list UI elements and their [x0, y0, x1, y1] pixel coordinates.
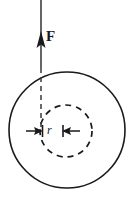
radius-label: r [47, 124, 52, 136]
physics-diagram-figure: F r [0, 0, 138, 204]
force-label: F [46, 29, 55, 44]
diagram-canvas [0, 0, 138, 204]
